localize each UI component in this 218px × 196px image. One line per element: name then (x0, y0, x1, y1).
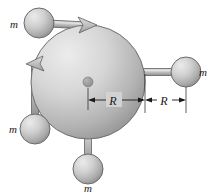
mass-sphere-top-left (24, 8, 54, 38)
dimension-outer-R: R (145, 92, 186, 108)
disk-hub (83, 77, 93, 87)
dimension-outer-R-label: R (159, 94, 168, 108)
mass-sphere-bottom (73, 154, 103, 184)
dimension-outer-R-arrow-right (179, 98, 186, 103)
dimension-outer-R-arrow-left (145, 98, 152, 103)
mass-label-top-left: m (10, 18, 18, 30)
mass-label-bottom: m (84, 182, 92, 194)
mass-label-left: m (9, 123, 17, 135)
mass-sphere-left (20, 114, 50, 144)
dimension-inner-R-label: R (108, 94, 117, 108)
mass-sphere-right (171, 57, 201, 87)
figure-canvas: R R m m m m (0, 0, 218, 196)
physics-figure: R R m m m m (0, 0, 218, 196)
mass-label-right: m (199, 66, 207, 78)
